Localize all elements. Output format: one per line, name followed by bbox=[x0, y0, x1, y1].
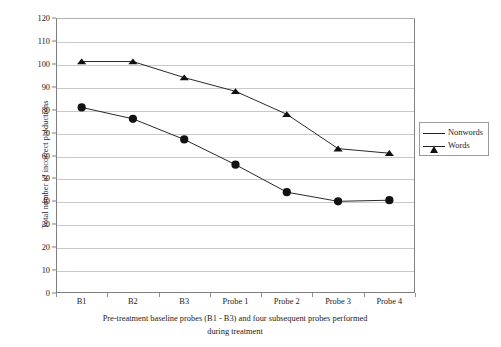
y-tick-label: 110 bbox=[10, 36, 50, 45]
y-tick-label: 90 bbox=[10, 82, 50, 91]
data-point-triangle bbox=[231, 88, 240, 94]
data-point-circle bbox=[334, 197, 342, 205]
legend-item-nonwords: Nonwords bbox=[423, 126, 483, 139]
series-words bbox=[78, 103, 394, 205]
x-tick-label: Probe 4 bbox=[354, 297, 424, 306]
y-axis-title: Total number of incorrect productions bbox=[41, 35, 50, 295]
y-tick-label: 70 bbox=[10, 128, 50, 137]
circle-marker-icon bbox=[423, 140, 445, 152]
data-point-circle bbox=[78, 103, 86, 111]
y-tick-label: 120 bbox=[10, 14, 50, 23]
x-axis-title: Pre-treatment baseline probes (B1 - B3) … bbox=[40, 312, 430, 338]
data-point-triangle bbox=[180, 74, 189, 80]
y-tick-label: 30 bbox=[10, 220, 50, 229]
data-point-circle bbox=[231, 161, 239, 169]
data-point-circle bbox=[180, 135, 188, 143]
legend-item-words: Words bbox=[423, 139, 483, 152]
data-point-circle bbox=[129, 115, 137, 123]
series-nonwords bbox=[77, 58, 394, 156]
chart-figure: Total number of incorrect productions 01… bbox=[0, 0, 501, 347]
x-axis-title-line1: Pre-treatment baseline probes (B1 - B3) … bbox=[40, 312, 430, 325]
chart-legend: Nonwords Words bbox=[419, 122, 489, 156]
triangle-marker-icon bbox=[423, 127, 445, 139]
series-line bbox=[82, 62, 390, 154]
y-tick-label: 60 bbox=[10, 151, 50, 160]
data-point-circle bbox=[385, 196, 393, 204]
data-point-triangle bbox=[282, 111, 291, 117]
series-layer bbox=[56, 18, 415, 293]
x-axis-title-line2: during treatment bbox=[40, 325, 430, 338]
y-tick-label: 80 bbox=[10, 105, 50, 114]
legend-label-nonwords: Nonwords bbox=[445, 128, 483, 137]
series-line bbox=[82, 107, 390, 201]
y-tick-label: 10 bbox=[10, 266, 50, 275]
y-tick-label: 100 bbox=[10, 59, 50, 68]
y-tick-label: 20 bbox=[10, 243, 50, 252]
y-tick-label: 0 bbox=[10, 289, 50, 298]
y-tick-label: 40 bbox=[10, 197, 50, 206]
legend-label-words: Words bbox=[445, 141, 470, 150]
y-tick-label: 50 bbox=[10, 174, 50, 183]
data-point-circle bbox=[283, 188, 291, 196]
